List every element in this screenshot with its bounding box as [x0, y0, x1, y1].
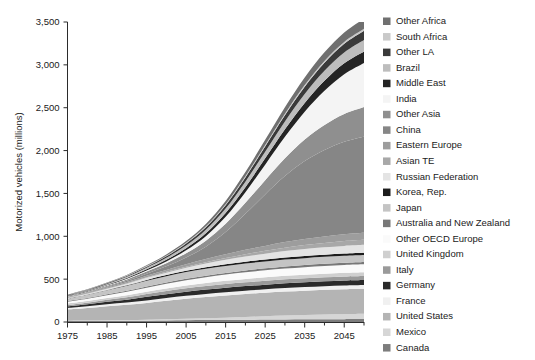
legend-swatch-icon: [383, 18, 391, 26]
legend-item[interactable]: Brazil: [383, 62, 420, 73]
legend-swatch-icon: [383, 64, 391, 72]
legend: Other AfricaSouth AfricaOther LABrazilMi…: [383, 15, 510, 353]
y-tick-label: 500: [44, 274, 60, 285]
legend-swatch-icon: [383, 173, 391, 181]
x-tick-label: 2025: [255, 330, 276, 341]
x-tick-label: 2045: [334, 330, 355, 341]
stacked-area-chart-figure: 05001,0001,5002,0002,5003,0003,500 19751…: [0, 0, 535, 360]
legend-item-label: Brazil: [396, 62, 420, 73]
legend-item[interactable]: Australia and New Zealand: [383, 217, 510, 228]
legend-item[interactable]: Canada: [383, 342, 430, 353]
legend-item[interactable]: Asian TE: [383, 155, 434, 166]
legend-swatch-icon: [383, 49, 391, 57]
x-tick-label: 1995: [136, 330, 157, 341]
legend-item[interactable]: Middle East: [383, 77, 446, 88]
legend-item-label: Other LA: [396, 46, 435, 57]
y-tick-label: 1,500: [36, 188, 60, 199]
y-tick-label: 2,000: [36, 145, 60, 156]
legend-item-label: France: [396, 295, 426, 306]
legend-item[interactable]: India: [383, 93, 417, 104]
legend-swatch-icon: [383, 235, 391, 243]
legend-swatch-icon: [383, 80, 391, 88]
legend-swatch-icon: [383, 282, 391, 290]
legend-swatch-icon: [383, 33, 391, 41]
legend-item[interactable]: China: [383, 124, 422, 135]
legend-swatch-icon: [383, 297, 391, 305]
legend-item-label: Korea, Rep.: [396, 186, 447, 197]
legend-item-label: Japan: [396, 202, 422, 213]
legend-item-label: Asian TE: [396, 155, 434, 166]
x-tick-label: 2015: [215, 330, 236, 341]
x-axis-ticks: 19751985199520052015202520352045: [57, 322, 364, 341]
legend-item[interactable]: Germany: [383, 279, 435, 290]
x-tick-label: 1985: [96, 330, 117, 341]
legend-item[interactable]: United Kingdom: [383, 248, 464, 259]
legend-swatch-icon: [383, 157, 391, 165]
legend-swatch-icon: [383, 220, 391, 228]
legend-swatch-icon: [383, 251, 391, 259]
legend-item-label: Other Asia: [396, 108, 441, 119]
legend-item[interactable]: Japan: [383, 202, 422, 213]
stacked-area-bands: [68, 19, 365, 322]
legend-item[interactable]: South Africa: [383, 31, 448, 42]
legend-swatch-icon: [383, 111, 391, 119]
legend-item-label: China: [396, 124, 422, 135]
legend-item[interactable]: United States: [383, 310, 453, 321]
legend-item-label: South Africa: [396, 31, 448, 42]
legend-item-label: Middle East: [396, 77, 446, 88]
legend-swatch-icon: [383, 266, 391, 274]
legend-item[interactable]: Korea, Rep.: [383, 186, 447, 197]
legend-item[interactable]: Russian Federation: [383, 171, 478, 182]
y-axis-title: Motorized vehicles (millions): [13, 112, 24, 231]
y-tick-label: 3,500: [36, 16, 60, 27]
legend-item-label: Other Africa: [396, 15, 447, 26]
legend-swatch-icon: [383, 126, 391, 134]
legend-item-label: Other OECD Europe: [396, 233, 483, 244]
legend-item[interactable]: Other Africa: [383, 15, 447, 26]
legend-item[interactable]: Eastern Europe: [383, 139, 462, 150]
legend-item[interactable]: Other LA: [383, 46, 435, 57]
legend-item[interactable]: France: [383, 295, 426, 306]
legend-swatch-icon: [383, 95, 391, 103]
legend-swatch-icon: [383, 142, 391, 150]
legend-item-label: Canada: [396, 342, 430, 353]
x-tick-label: 2005: [176, 330, 197, 341]
x-tick-label: 2035: [294, 330, 315, 341]
legend-item-label: Russian Federation: [396, 171, 478, 182]
y-tick-label: 3,000: [36, 59, 60, 70]
legend-item-label: United Kingdom: [396, 248, 464, 259]
legend-item[interactable]: Italy: [383, 264, 414, 275]
legend-swatch-icon: [383, 204, 391, 212]
legend-item-label: United States: [396, 310, 453, 321]
y-axis-ticks: 05001,0001,5002,0002,5003,0003,500: [36, 16, 68, 327]
chart-canvas: 05001,0001,5002,0002,5003,0003,500 19751…: [0, 0, 535, 360]
legend-item[interactable]: Mexico: [383, 326, 426, 337]
x-tick-label: 1975: [57, 330, 78, 341]
legend-item-label: Mexico: [396, 326, 426, 337]
legend-item[interactable]: Other OECD Europe: [383, 233, 483, 244]
legend-item-label: Italy: [396, 264, 414, 275]
legend-item-label: Australia and New Zealand: [396, 217, 510, 228]
legend-item-label: Eastern Europe: [396, 139, 462, 150]
legend-item[interactable]: Other Asia: [383, 108, 441, 119]
legend-swatch-icon: [383, 313, 391, 321]
legend-swatch-icon: [383, 329, 391, 337]
legend-item-label: India: [396, 93, 417, 104]
legend-swatch-icon: [383, 344, 391, 352]
y-tick-label: 1,000: [36, 231, 60, 242]
legend-swatch-icon: [383, 189, 391, 197]
legend-item-label: Germany: [396, 279, 435, 290]
y-tick-label: 0: [54, 316, 59, 327]
y-tick-label: 2,500: [36, 102, 60, 113]
